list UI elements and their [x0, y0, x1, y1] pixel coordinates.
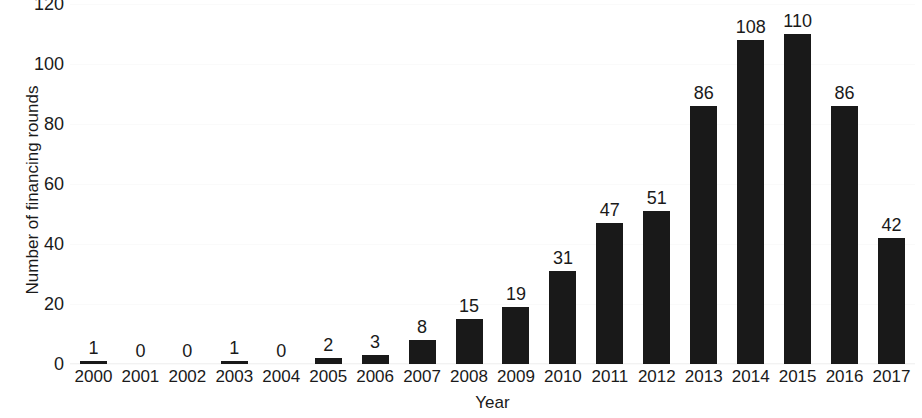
bar-2007[interactable]: 8 — [409, 4, 436, 364]
bar-rect — [315, 358, 342, 364]
bar-rect — [737, 40, 764, 364]
bar-value-label: 42 — [857, 216, 922, 234]
bar-value-label: 51 — [622, 189, 692, 207]
y-tick-label: 0 — [0, 355, 64, 373]
bar-2017[interactable]: 42 — [878, 4, 905, 364]
x-axis-title: Year — [70, 392, 915, 414]
bar-value-label: 8 — [387, 318, 457, 336]
bar-rect — [878, 238, 905, 364]
bar-value-label: 110 — [763, 12, 833, 30]
bar-2004[interactable]: 0 — [268, 4, 295, 364]
y-tick-label: 60 — [0, 175, 64, 193]
bar-value-label: 86 — [669, 84, 739, 102]
bar-2000[interactable]: 1 — [80, 4, 107, 364]
bar-rect — [549, 271, 576, 364]
bar-rect — [690, 106, 717, 364]
bar-rect — [643, 211, 670, 364]
y-tick-label: 100 — [0, 55, 64, 73]
gridline — [70, 364, 915, 365]
bar-2014[interactable]: 108 — [737, 4, 764, 364]
bar-2002[interactable]: 0 — [174, 4, 201, 364]
y-tick-label: 80 — [0, 115, 64, 133]
bar-rect — [784, 34, 811, 364]
y-tick-label: 20 — [0, 295, 64, 313]
bar-2013[interactable]: 86 — [690, 4, 717, 364]
bar-rect — [409, 340, 436, 364]
bar-2005[interactable]: 2 — [315, 4, 342, 364]
bar-2008[interactable]: 15 — [456, 4, 483, 364]
bar-2001[interactable]: 0 — [127, 4, 154, 364]
bar-2006[interactable]: 3 — [362, 4, 389, 364]
y-tick-label: 40 — [0, 235, 64, 253]
bar-2009[interactable]: 19 — [502, 4, 529, 364]
bar-chart: Number of financing rounds 0204060801001… — [0, 0, 922, 418]
bar-rect — [221, 361, 248, 364]
plot-area: 100102381519314751861081108642 — [70, 4, 915, 364]
bar-rect — [456, 319, 483, 364]
x-tick-label: 2017 — [857, 366, 922, 388]
bar-rect — [596, 223, 623, 364]
bar-rect — [831, 106, 858, 364]
y-tick-label: 120 — [0, 0, 64, 13]
y-axis-tick-labels: 020406080100120 — [0, 0, 64, 418]
bar-rect — [502, 307, 529, 364]
bar-2015[interactable]: 110 — [784, 4, 811, 364]
bar-2011[interactable]: 47 — [596, 4, 623, 364]
bar-2012[interactable]: 51 — [643, 4, 670, 364]
bar-value-label: 31 — [528, 249, 598, 267]
bar-rect — [362, 355, 389, 364]
x-axis-tick-labels: 2000200120022003200420052006200720082009… — [70, 366, 915, 390]
bar-value-label: 19 — [481, 285, 551, 303]
bar-value-label: 86 — [810, 84, 880, 102]
bar-2003[interactable]: 1 — [221, 4, 248, 364]
bar-2016[interactable]: 86 — [831, 4, 858, 364]
bar-rect — [80, 361, 107, 364]
bar-2010[interactable]: 31 — [549, 4, 576, 364]
